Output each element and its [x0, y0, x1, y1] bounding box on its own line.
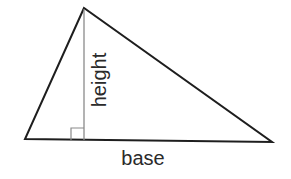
- triangle-outline: [25, 8, 272, 142]
- triangle-diagram: height base: [0, 0, 291, 179]
- height-label: height: [88, 52, 110, 107]
- base-label: base: [121, 147, 164, 169]
- right-angle-marker: [71, 128, 84, 140]
